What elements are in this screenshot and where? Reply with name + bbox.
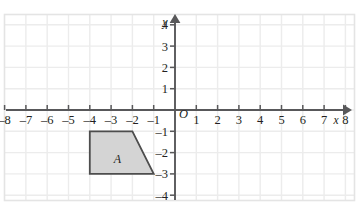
y-tick-label: –1: [155, 125, 169, 139]
x-tick-label: 4: [257, 113, 264, 127]
y-tick-label: 3: [162, 40, 168, 54]
shape-label-a: A: [113, 152, 122, 166]
coordinate-plane-svg: A –8–7–6–5–4–3–2–1123456784321–1–2–3–4 O…: [0, 0, 359, 209]
coordinate-plane-figure: A –8–7–6–5–4–3–2–1123456784321–1–2–3–4 O…: [0, 0, 359, 209]
x-tick-label: 8: [342, 113, 348, 127]
x-tick-label: 2: [214, 113, 220, 127]
origin-label: O: [179, 107, 188, 121]
x-tick-label: 5: [278, 113, 284, 127]
x-tick-label: –4: [83, 113, 97, 127]
y-tick-label: 1: [162, 82, 168, 96]
x-tick-label: –2: [125, 113, 139, 127]
x-tick-label: –8: [0, 113, 11, 127]
x-tick-label: 7: [321, 113, 327, 127]
x-tick-label: 1: [193, 113, 199, 127]
x-tick-label: 6: [300, 113, 306, 127]
x-axis-label: x: [332, 114, 339, 126]
y-tick-label: –4: [155, 189, 169, 203]
x-tick-label: –5: [61, 113, 75, 127]
y-tick-label: 2: [162, 61, 168, 75]
y-axis-label: y: [161, 16, 168, 29]
x-tick-label: –3: [104, 113, 118, 127]
x-tick-label: –6: [40, 113, 54, 127]
y-tick-label: –3: [155, 167, 169, 181]
x-tick-label: 3: [236, 113, 242, 127]
x-tick-label: –7: [19, 113, 33, 127]
y-tick-label: –2: [155, 146, 169, 160]
figure-background: [0, 0, 359, 209]
